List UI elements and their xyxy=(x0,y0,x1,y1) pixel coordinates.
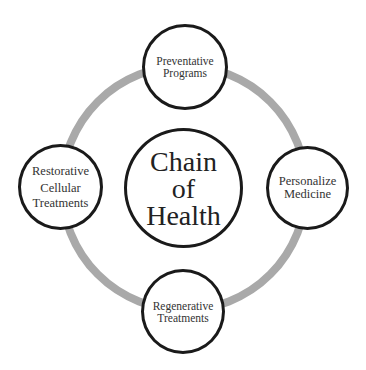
node-label-line: Restorative xyxy=(32,164,89,179)
node-restorative-cellular-treatments: Restorative Cellular Treatments xyxy=(18,144,103,230)
node-preventative-programs: Preventative Programs xyxy=(142,24,228,110)
chain-of-health-diagram: Preventative Programs Personalize Medici… xyxy=(0,0,366,370)
node-label-line: Treatments xyxy=(157,312,208,324)
node-regenerative-treatments: Regenerative Treatments xyxy=(141,269,225,354)
node-label-line: Programs xyxy=(163,67,207,79)
node-personalize-medicine: Personalize Medicine xyxy=(266,146,349,230)
center-title-line: Health xyxy=(146,202,221,229)
node-label-line: Medicine xyxy=(284,188,331,201)
node-label-line: Cellular xyxy=(40,181,80,196)
node-label-line: Regenerative xyxy=(153,300,214,312)
node-label-line: Preventative xyxy=(156,55,213,67)
center-title-line: Chain xyxy=(150,148,217,175)
center-title-line: of xyxy=(172,175,195,202)
node-label-line: Treatments xyxy=(33,196,89,211)
node-chain-of-health: Chain of Health xyxy=(124,128,243,248)
